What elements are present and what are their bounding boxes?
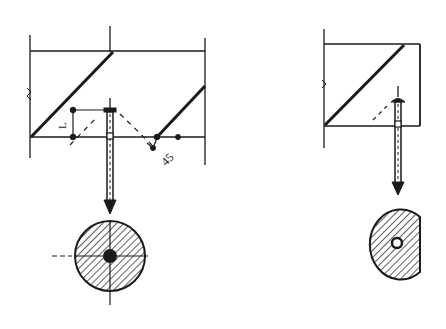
left-cross-section [52, 221, 148, 305]
figure-canvas: L 45 [0, 0, 446, 329]
down-arrow-icon [104, 200, 116, 214]
dimension-node-top [70, 107, 76, 113]
down-arrow-icon [392, 182, 404, 195]
angle-label-45: 45 [158, 150, 176, 168]
right-elevation-diagram [322, 29, 420, 148]
right-cross-section [370, 210, 420, 280]
diagonal-brace-2 [157, 86, 205, 137]
dimension-node-bottom [70, 134, 76, 140]
dimension-label-L: L [56, 122, 68, 129]
left-elevation-diagram [27, 26, 205, 165]
figure-caption [48, 322, 408, 329]
bolt-hole [392, 238, 402, 248]
left-bolt-arrow [104, 98, 116, 214]
right-bolt-arrow [391, 86, 405, 195]
diagonal-brace-1 [31, 52, 113, 137]
dashed-projection-left [70, 117, 97, 145]
dashed-projection-right [120, 114, 152, 145]
bolt-core [103, 249, 117, 263]
chord-node [176, 135, 181, 140]
diagonal-brace [325, 45, 404, 125]
dashed-projection [373, 106, 387, 120]
